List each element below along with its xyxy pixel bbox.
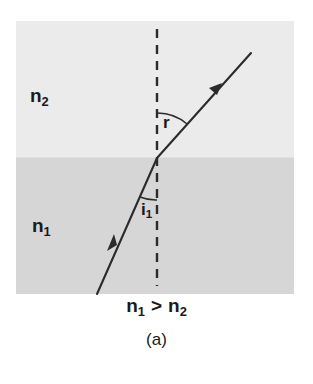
relation-operator: >	[151, 295, 162, 316]
panel-label-text: (a)	[146, 331, 167, 348]
incidence-angle-label: i1	[141, 201, 152, 218]
upper-medium-label: n2	[30, 86, 49, 105]
refraction-angle-label: r	[163, 114, 170, 131]
lower-medium-label-base: n	[32, 215, 44, 236]
relation-left-base: n	[126, 295, 138, 316]
upper-medium-label-base: n	[30, 85, 42, 106]
panel-label: (a)	[0, 331, 313, 348]
relation-right-subscript: 2	[180, 304, 187, 319]
upper-medium-region	[16, 21, 294, 158]
refraction-figure: #region-upper { fill: #ebebeb; } #region…	[0, 0, 313, 384]
refraction-angle-label-base: r	[163, 113, 170, 132]
relation-right-base: n	[168, 295, 180, 316]
incidence-angle-label-subscript: 1	[146, 208, 152, 220]
lower-medium-label: n1	[32, 216, 51, 235]
upper-medium-label-subscript: 2	[42, 94, 49, 109]
lower-medium-region	[16, 158, 294, 294]
index-relation-caption: n1>n2	[0, 296, 313, 315]
lower-medium-label-subscript: 1	[44, 224, 51, 239]
refraction-diagram-svg: #region-upper { fill: #ebebeb; } #region…	[0, 0, 313, 384]
relation-left-subscript: 1	[138, 304, 145, 319]
